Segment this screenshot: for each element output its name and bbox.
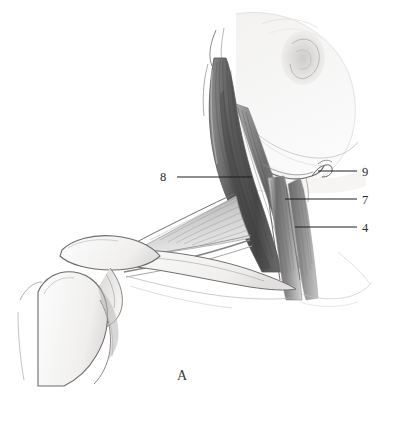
label-8: 8 (160, 170, 166, 184)
label-4: 4 (362, 221, 369, 235)
label-9: 9 (362, 165, 368, 179)
anatomical-figure: 8 9 7 4 A (0, 0, 415, 444)
figure-caption: A (177, 368, 188, 383)
label-7: 7 (362, 193, 368, 207)
